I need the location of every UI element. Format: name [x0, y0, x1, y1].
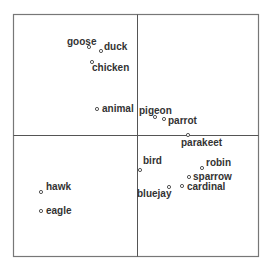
data-point-label: pigeon [139, 105, 172, 116]
data-point-marker [39, 209, 42, 212]
data-point-label: parrot [168, 115, 198, 126]
data-point-marker [95, 107, 98, 110]
data-point-marker [99, 49, 102, 52]
data-point-label: parakeet [181, 137, 223, 148]
data-point-marker [138, 168, 141, 171]
data-point-label: chicken [92, 62, 129, 73]
data-point-label: robin [206, 157, 231, 168]
data-point-marker [200, 166, 203, 169]
data-point-label: bird [143, 155, 162, 166]
data-point-marker [187, 175, 190, 178]
data-point-label: eagle [46, 205, 72, 216]
data-point-label: hawk [46, 181, 71, 192]
data-point-marker [39, 190, 42, 193]
data-point-marker [180, 184, 183, 187]
data-point-label: goose [67, 36, 97, 47]
data-point-label: animal [102, 103, 134, 114]
data-point-label: duck [104, 41, 128, 52]
data-point-label: bluejay [137, 188, 172, 199]
data-points: gooseduckchickenanimalpigeonparrotparake… [39, 36, 232, 216]
data-point-marker [162, 117, 165, 120]
scatter-plot: gooseduckchickenanimalpigeonparrotparake… [0, 0, 272, 267]
data-point-label: cardinal [187, 181, 226, 192]
